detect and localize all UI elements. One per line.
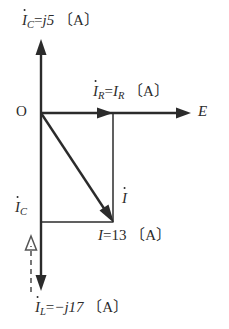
il-value: −j17 xyxy=(54,299,83,315)
label-capacitive-current-top: IC=j5 〔A〕 xyxy=(22,13,99,30)
ir-unit: 〔A〕 xyxy=(128,83,169,99)
label-resultant-symbol: I xyxy=(122,191,127,206)
ic-low-symbol: I xyxy=(15,199,20,215)
imaginary-axis-down-arrowhead xyxy=(36,275,47,291)
imaginary-axis-up-arrowhead xyxy=(36,39,47,55)
label-inductive-current: IL=−j17 〔A〕 xyxy=(35,300,128,317)
phasor-diagram: IC=j5 〔A〕 IR=IR 〔A〕 O E I I=13 〔A〕 IC IL… xyxy=(0,0,229,329)
ic-top-value: j5 xyxy=(42,12,54,28)
capacitive-helper-arrowhead xyxy=(26,236,37,250)
resultant-phasor-arrowhead xyxy=(100,205,115,224)
phasor-diagram-canvas xyxy=(0,0,229,329)
ic-top-subscript: C xyxy=(27,19,34,30)
ir-phasor-arrowhead xyxy=(97,108,113,119)
label-origin: O xyxy=(16,104,27,119)
label-capacitive-current-lower: IC xyxy=(15,200,27,217)
ic-low-subscript: C xyxy=(20,206,27,217)
ir-equals: = xyxy=(104,83,112,99)
imag-value: 13 xyxy=(111,227,126,243)
label-emf-axis: E xyxy=(198,104,207,119)
il-symbol: I xyxy=(35,299,40,315)
label-resultant-magnitude: I=13 〔A〕 xyxy=(98,228,171,243)
label-resistive-current: IR=IR 〔A〕 xyxy=(93,84,169,101)
real-axis-arrowhead xyxy=(176,108,191,119)
ir-symbol: I xyxy=(93,83,98,99)
imag-unit: 〔A〕 xyxy=(130,227,171,243)
ic-top-symbol: I xyxy=(22,12,27,28)
resultant-phasor-line xyxy=(41,113,107,213)
il-unit: 〔A〕 xyxy=(87,299,128,315)
ir-value-subscript: R xyxy=(118,90,124,101)
resultant-symbol-text: I xyxy=(122,190,127,206)
ic-top-unit: 〔A〕 xyxy=(58,12,99,28)
